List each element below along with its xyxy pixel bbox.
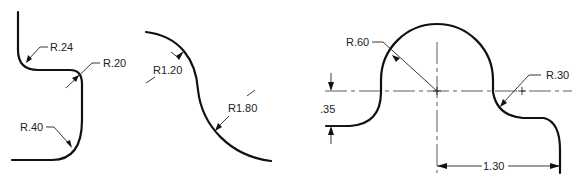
label-width: 1.30 [483, 160, 504, 172]
arrowhead [550, 163, 560, 169]
label-height: .35 [320, 103, 335, 115]
profile-outline [12, 12, 82, 160]
label-r1-80: R1.80 [228, 102, 257, 114]
figure-fillet-profile: R.24 R.20 R.40 [12, 12, 126, 160]
label-r30: R.30 [546, 69, 569, 81]
technical-drawing: R.24 R.20 R.40 R1.20 R1.80 [0, 0, 583, 183]
label-r60: R.60 [346, 36, 369, 48]
label-r1-20: R1.20 [153, 64, 182, 76]
arrowhead [328, 82, 334, 91]
center-mark-small [518, 87, 526, 95]
figure-reverse-curve: R1.20 R1.80 [146, 32, 271, 161]
arrowhead [328, 126, 334, 135]
arrowhead [437, 163, 447, 169]
label-r20: R.20 [103, 57, 126, 69]
leader-r1-80 [247, 90, 255, 96]
leader-r1-20-stub [146, 77, 155, 83]
reverse-curve-outline [146, 32, 271, 161]
label-r40: R.40 [20, 121, 43, 133]
figure-arc-profile: R.60 R.30 .35 1.30 [320, 24, 572, 173]
label-r24: R.24 [50, 41, 73, 53]
